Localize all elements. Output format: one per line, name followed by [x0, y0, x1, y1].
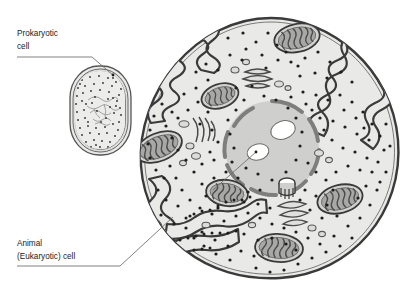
centriole — [279, 178, 295, 199]
prokaryotic-cell — [70, 66, 131, 155]
leader-dot-prokaryotic — [112, 74, 115, 77]
diagram-canvas: Prokaryotic cell Animal (Eukaryotic) cel… — [0, 0, 403, 291]
cell-diagram-figure: Prokaryotic cell Animal (Eukaryotic) cel… — [0, 0, 403, 291]
golgi-apparatus — [243, 69, 272, 88]
prokaryotic-label-line1: Prokaryotic — [17, 29, 58, 38]
prokaryotic-label-line2: cell — [17, 42, 29, 51]
eukaryotic-label-line2: (Eukaryotic) cell — [17, 252, 75, 261]
prokaryotic-cytoplasm — [75, 71, 126, 150]
eukaryotic-label-line1: Animal — [17, 239, 42, 248]
leader-dot-nucleolus — [255, 151, 258, 154]
